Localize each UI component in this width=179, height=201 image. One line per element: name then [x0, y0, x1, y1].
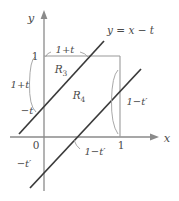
upper-line-equation: y = x − t [106, 24, 155, 36]
upper-line-y-intercept-label: −t [21, 105, 34, 116]
diagonal-lines-group [19, 41, 141, 188]
y-axis-arrowhead [41, 10, 48, 19]
region-R4-sub: 4 [81, 95, 86, 104]
region-R3-base: R [54, 63, 63, 75]
y-tick-one-label: 1 [32, 50, 39, 62]
x-axis-label: x [164, 131, 171, 145]
diagonal-line-lower [30, 69, 141, 188]
region-R3-sub: 3 [63, 69, 68, 78]
region-R4-base: R [72, 89, 81, 101]
annotation-top-segment: 1+t [56, 44, 76, 55]
x-tick-one-label: 1 [118, 139, 125, 151]
region-label-R4: R4 [72, 89, 86, 104]
labels-group: y x 0 y = x − t 1 1 1+t 1+t −t 1−t′ 1−t′… [11, 11, 171, 169]
leader-left-brace [29, 57, 36, 112]
region-label-R3: R3 [54, 63, 68, 78]
origin-label: 0 [33, 139, 40, 151]
annotation-left-segment: 1+t [11, 79, 31, 90]
lower-line-y-intercept-label: −t′ [17, 158, 32, 169]
math-figure: y x 0 y = x − t 1 1 1+t 1+t −t 1−t′ 1−t′… [0, 0, 179, 201]
leader-bottom [74, 140, 80, 149]
figure-canvas: y x 0 y = x − t 1 1 1+t 1+t −t 1−t′ 1−t′… [0, 0, 179, 201]
y-axis-label: y [27, 11, 35, 25]
x-axis-arrowhead [150, 134, 159, 141]
annotation-bottom-segment: 1−t′ [84, 146, 106, 157]
annotation-right-segment: 1−t′ [126, 96, 148, 107]
leader-right-brace [111, 70, 118, 134]
